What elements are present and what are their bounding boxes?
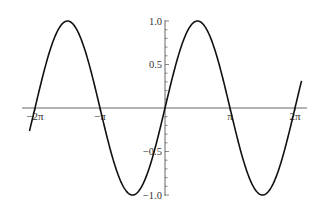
y-tick-label: −1.0 xyxy=(143,190,162,201)
x-tick-label: −2π xyxy=(26,110,44,122)
y-tick-label: 1.0 xyxy=(149,16,162,27)
x-tick-label: 2π xyxy=(289,110,301,122)
y-tick-label: 0.5 xyxy=(149,59,162,70)
sine-plot: 1.00.5−0.5−1.0−2π−ππ2π xyxy=(0,0,321,210)
